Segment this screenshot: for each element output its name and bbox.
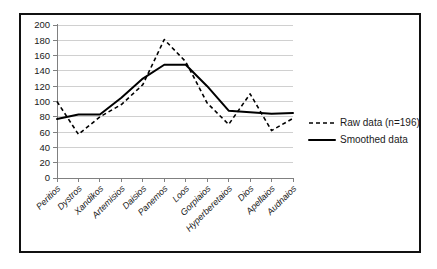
- y-tick-label: 0: [45, 172, 50, 183]
- chart-figure: 020406080100120140160180200 PeritiosDyst…: [0, 0, 437, 269]
- series-line-smoothed-data: [57, 65, 293, 119]
- legend-label: Raw data (n=196): [340, 117, 419, 128]
- y-tick-label: 180: [34, 35, 50, 46]
- y-tick-label: 120: [34, 81, 50, 92]
- y-tick-label: 200: [34, 19, 50, 30]
- series-line-raw-data: [57, 40, 293, 135]
- y-tick-label: 20: [39, 157, 50, 168]
- gridlines-group: [57, 25, 293, 178]
- x-axis-tick-labels: PeritiosDystrosXandikosArtemisiosDaisios…: [34, 183, 299, 234]
- line-chart: 020406080100120140160180200 PeritiosDyst…: [21, 15, 419, 251]
- chart-border-frame: 020406080100120140160180200 PeritiosDyst…: [19, 13, 421, 253]
- y-tick-label: 60: [39, 127, 50, 138]
- y-tick-label: 40: [39, 142, 50, 153]
- y-tick-label: 140: [34, 65, 50, 76]
- chart-legend: Raw data (n=196)Smoothed data: [309, 117, 419, 145]
- data-series-group: [57, 40, 293, 135]
- y-tick-label: 80: [39, 111, 50, 122]
- y-axis-tick-labels: 020406080100120140160180200: [34, 19, 50, 183]
- y-tick-label: 160: [34, 50, 50, 61]
- x-axis-tickmarks: [57, 178, 293, 182]
- legend-label: Smoothed data: [340, 134, 408, 145]
- y-tick-label: 100: [34, 96, 50, 107]
